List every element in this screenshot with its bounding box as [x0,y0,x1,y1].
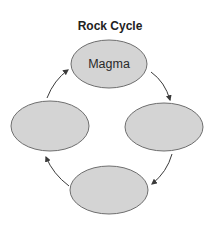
node-right [125,103,203,151]
arrow-bottom-to-left-icon [46,157,69,186]
arrow-right-to-bottom-icon [152,154,172,184]
node-right-ellipse [125,103,203,151]
diagram-title: Rock Cycle [78,19,143,33]
arrow-top-to-right-icon [151,72,170,100]
node-bottom [70,166,148,214]
node-top-label: Magma [88,57,130,71]
node-left-ellipse [11,101,89,151]
node-bottom-ellipse [70,166,148,214]
rock-cycle-diagram: Rock Cycle Magma [0,0,211,230]
node-magma: Magma [71,40,147,88]
arrow-left-to-top-icon [47,70,68,98]
node-left [11,101,89,151]
